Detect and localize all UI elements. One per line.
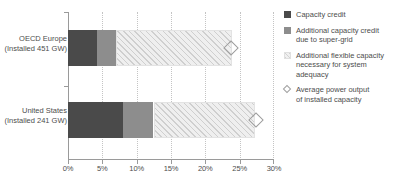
- legend-label-average-power-output: Average power output of installed capaci…: [296, 85, 369, 104]
- legend-label-capacity-credit: Capacity credit: [296, 10, 346, 20]
- legend-label-flexible-capacity: Additional flexible capacity necessary f…: [296, 51, 397, 80]
- legend: Capacity credit Additional capacity cred…: [284, 10, 397, 110]
- bar-oecd-europe[interactable]: [68, 30, 273, 66]
- legend-label-average-power-output-line1: Average power output: [296, 85, 369, 95]
- bar-segment-capacity-credit[interactable]: [68, 102, 123, 138]
- plot-area: [68, 12, 274, 160]
- legend-swatch-dark-square-icon: [284, 11, 291, 18]
- bar-segment-supergrid[interactable]: [123, 102, 154, 138]
- bar-segment-flexible[interactable]: [116, 30, 233, 66]
- category-label-united-states-detail: (Installed 241 GW): [4, 116, 67, 126]
- legend-label-supergrid-line2: due to super-grid: [296, 35, 379, 45]
- bar-segment-supergrid[interactable]: [97, 30, 116, 66]
- category-label-united-states-name: United States: [4, 106, 67, 116]
- category-label-oecd-europe-detail: (Installed 451 GW): [4, 44, 67, 54]
- gridline-30: [273, 12, 275, 160]
- x-tick-label-5: 5%: [97, 164, 108, 173]
- x-tick-label-30: 30%: [267, 164, 282, 173]
- x-tick-label-15: 15%: [164, 164, 179, 173]
- x-tick-label-20: 20%: [198, 164, 213, 173]
- legend-label-average-power-output-line2: of installed capacity: [296, 95, 369, 105]
- legend-item-average-power-output[interactable]: Average power output of installed capaci…: [284, 85, 397, 104]
- legend-label-supergrid: Additional capacity credit due to super-…: [296, 26, 379, 45]
- bar-segment-capacity-credit[interactable]: [68, 30, 97, 66]
- legend-item-supergrid[interactable]: Additional capacity credit due to super-…: [284, 26, 397, 45]
- legend-label-flexible-capacity-line2: necessary for system adequacy: [296, 60, 397, 79]
- y-axis-tick-middle: [64, 86, 68, 87]
- legend-swatch-diamond-icon: [284, 86, 291, 93]
- legend-item-flexible-capacity[interactable]: Additional flexible capacity necessary f…: [284, 51, 397, 80]
- x-tick-label-10: 10%: [129, 164, 144, 173]
- chart-page: OECD Europe (Installed 451 GW) United St…: [0, 0, 399, 180]
- legend-label-supergrid-line1: Additional capacity credit: [296, 26, 379, 36]
- x-tick-label-0: 0%: [63, 164, 74, 173]
- legend-label-capacity-credit-line1: Capacity credit: [296, 10, 346, 20]
- legend-item-capacity-credit[interactable]: Capacity credit: [284, 10, 397, 20]
- category-label-united-states: United States (Installed 241 GW): [4, 106, 67, 126]
- x-tick-label-25: 25%: [232, 164, 247, 173]
- category-label-oecd-europe-name: OECD Europe: [4, 34, 67, 44]
- legend-swatch-hatched-square-icon: [284, 52, 291, 59]
- category-label-oecd-europe: OECD Europe (Installed 451 GW): [4, 34, 67, 54]
- legend-swatch-mid-square-icon: [284, 27, 291, 34]
- bar-united-states[interactable]: [68, 102, 273, 138]
- bar-segment-flexible[interactable]: [154, 102, 255, 138]
- legend-label-flexible-capacity-line1: Additional flexible capacity: [296, 51, 397, 61]
- diamond-icon: [283, 85, 291, 93]
- y-axis-tick-top: [64, 12, 68, 13]
